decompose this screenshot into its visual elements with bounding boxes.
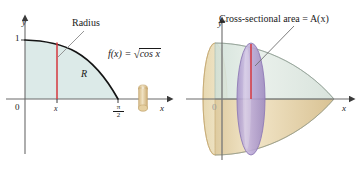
function-radicand: cos x — [139, 48, 161, 59]
origin-label: 0 — [15, 103, 20, 112]
region-plot-panel: y x 0 1 x π 2 Radius R f(x) = √cos x — [0, 0, 182, 180]
solid-of-revolution-panel: y x 0 Cross-sectional area = A(x) — [182, 0, 364, 180]
function-label: f(x) = √cos x — [108, 48, 161, 60]
cross-section-highlight — [243, 49, 251, 149]
x-axis-label: x — [160, 104, 164, 113]
disk-icon — [139, 85, 148, 111]
cross-section-label: Cross-sectional area = A(x) — [219, 14, 329, 24]
solid-of-revolution-svg — [182, 0, 364, 180]
function-prefix: f(x) = — [108, 48, 134, 59]
radius-label: Radius — [72, 18, 100, 28]
origin-label: 0 — [212, 103, 217, 112]
calculus-figure: y x 0 1 x π 2 Radius R f(x) = √cos x — [0, 0, 364, 180]
sqrt-icon: √cos x — [134, 48, 161, 60]
solid-top-half — [215, 43, 334, 99]
x-tick-label: x — [54, 105, 58, 113]
x-end-fraction-pi-over-two: π 2 — [113, 104, 124, 120]
fraction-denominator: 2 — [113, 111, 124, 119]
x-axis-label: x — [342, 104, 346, 113]
y-axis-label: y — [22, 18, 26, 27]
fraction-numerator: π — [113, 104, 124, 111]
region-label-R: R — [81, 69, 87, 79]
solid-bottom-half — [215, 99, 334, 155]
y-tick-label-one: 1 — [15, 34, 20, 43]
